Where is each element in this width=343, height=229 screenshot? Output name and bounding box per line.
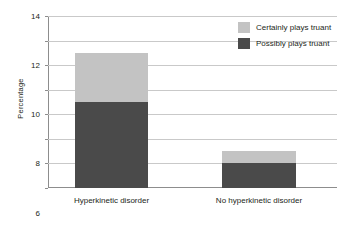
x-axis-category-label: No hyperkinetic disorder — [216, 196, 302, 205]
y-tick-label: 14 — [31, 12, 40, 21]
y-tick-mark: 0 — [45, 188, 48, 189]
y-axis-title: Percentage — [16, 63, 25, 135]
chart-container: Percentage 02468101214 Hyperkinetic diso… — [0, 0, 343, 229]
y-tick-mark: 4 — [45, 139, 48, 140]
y-axis-line — [48, 16, 49, 188]
bar-segment — [222, 151, 296, 163]
bar-segment — [222, 163, 296, 188]
y-tick-label: 10 — [31, 110, 40, 119]
y-tick-label: 6 — [36, 208, 40, 217]
legend-item-certainly: Certainly plays truant — [238, 19, 331, 35]
x-axis-category-label: Hyperkinetic disorder — [74, 196, 149, 205]
y-tick-mark: 12 — [45, 41, 48, 42]
y-tick-mark: 10 — [45, 65, 48, 66]
legend-swatch-possibly-icon — [238, 38, 250, 49]
bar-segment — [75, 102, 148, 188]
legend-label-possibly: Possibly plays truant — [256, 39, 329, 48]
legend-swatch-certainly-icon — [238, 22, 250, 33]
y-tick-mark: 8 — [45, 90, 48, 91]
gridline — [48, 16, 337, 17]
legend-label-certainly: Certainly plays truant — [256, 23, 331, 32]
legend-item-possibly: Possibly plays truant — [238, 35, 331, 51]
y-tick-mark: 6 — [45, 114, 48, 115]
y-tick-mark: 2 — [45, 163, 48, 164]
legend: Certainly plays truant Possibly plays tr… — [238, 19, 331, 51]
bar-segment — [75, 53, 148, 102]
y-tick-mark: 14 — [45, 16, 48, 17]
y-tick-label: 12 — [31, 61, 40, 70]
y-tick-label: 8 — [36, 159, 40, 168]
